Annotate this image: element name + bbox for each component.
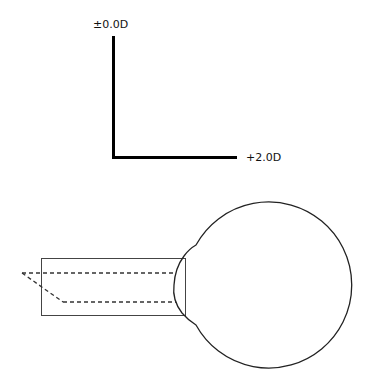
eyeball-outline <box>174 202 352 368</box>
dashed-ray-path <box>22 273 176 302</box>
tube-rectangle <box>42 259 186 316</box>
power-axes <box>112 36 237 159</box>
eye-diagram <box>0 0 365 376</box>
